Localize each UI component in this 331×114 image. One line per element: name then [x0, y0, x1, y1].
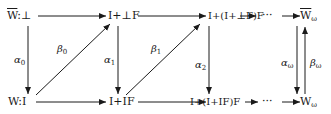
node-w-bar-omega: Wω — [300, 10, 317, 25]
label-beta1: β1 — [151, 44, 161, 57]
arrow-beta0 — [36, 24, 110, 95]
label-alpha-omega: αω — [281, 58, 293, 71]
node-i-plus-if: I+IF — [109, 96, 135, 108]
alpha-symbol: α — [14, 54, 21, 65]
arrow-beta1 — [126, 24, 200, 95]
node-i-plus-bottom-f: I+⊥F — [108, 10, 140, 22]
omega-sub: ω — [311, 15, 317, 23]
beta-sub: ω — [316, 62, 322, 70]
alpha-symbol: α — [104, 54, 111, 65]
node-w-bar-bottom: W:⊥ — [7, 10, 31, 22]
omega-sub: ω — [311, 101, 317, 109]
w-omega-bar-label: W — [300, 9, 311, 22]
bottom-suffix: :⊥ — [17, 9, 31, 22]
alpha-sub: 0 — [21, 59, 25, 67]
alpha-sub: 1 — [111, 59, 115, 67]
node-w-i: W:I — [8, 96, 26, 108]
label-alpha2: α2 — [195, 60, 206, 73]
alpha-sub: 2 — [202, 64, 206, 72]
dots-top: ··· — [262, 10, 273, 22]
label-alpha0: α0 — [14, 55, 25, 68]
label-beta0: β0 — [57, 44, 67, 57]
node-i-plus-i-plus-bottom-f-f: I+(I+⊥F)F — [208, 10, 264, 22]
beta-sub: 1 — [157, 48, 161, 56]
node-w-omega: Wω — [300, 96, 317, 111]
alpha-symbol: α — [195, 59, 202, 70]
node-i-plus-i-plus-if-f: I+(I+IF)F — [190, 96, 240, 108]
label-beta-omega: βω — [310, 58, 322, 71]
dots-bottom: ··· — [262, 96, 273, 108]
alpha-symbol: α — [281, 57, 288, 68]
label-alpha1: α1 — [104, 55, 115, 68]
beta-sub: 0 — [63, 48, 67, 56]
w-bar-label: W — [7, 9, 17, 22]
alpha-sub: ω — [288, 62, 294, 70]
w-omega-label: W — [300, 95, 311, 108]
